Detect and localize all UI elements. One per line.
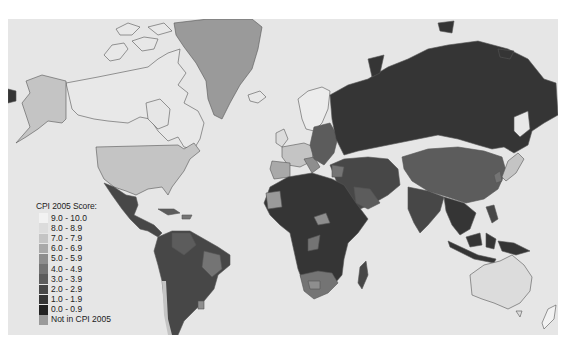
legend-item: 4.0 - 4.9 — [30, 264, 120, 274]
region-new-zealand — [542, 305, 556, 329]
legend-label: 4.0 - 4.9 — [51, 265, 82, 274]
region-iberia — [270, 161, 290, 179]
legend-title: CPI 2005 Score: — [36, 201, 120, 211]
legend-item: 2.0 - 2.9 — [30, 284, 120, 294]
legend-swatch — [39, 234, 48, 244]
legend-label: Not in CPI 2005 — [51, 315, 111, 324]
legend-swatch — [39, 223, 48, 233]
legend-item: 5.0 - 5.9 — [30, 254, 120, 264]
region-southeast-asia — [444, 197, 476, 235]
legend-item: 9.0 - 10.0 — [30, 213, 120, 223]
legend-swatch — [39, 264, 48, 274]
legend-item: 0.0 - 0.9 — [30, 305, 120, 315]
legend-swatch — [39, 315, 48, 325]
legend-label: 6.0 - 6.9 — [51, 244, 82, 253]
legend-label: 9.0 - 10.0 — [51, 214, 87, 223]
legend-swatch — [39, 285, 48, 295]
legend-swatch — [39, 274, 48, 284]
region-japan — [502, 153, 524, 181]
region-uk — [276, 129, 288, 147]
legend-label: 5.0 - 5.9 — [51, 254, 82, 263]
legend-item: 7.0 - 7.9 — [30, 233, 120, 243]
legend-swatch — [39, 295, 48, 305]
legend-swatch — [39, 213, 48, 223]
legend-label: 2.0 - 2.9 — [51, 285, 82, 294]
region-australia — [470, 255, 532, 309]
map-legend: CPI 2005 Score: 9.0 - 10.0 8.0 - 8.9 7.0… — [30, 201, 120, 325]
region-western-sahara — [266, 191, 282, 209]
region-alaska — [16, 75, 66, 143]
legend-item: Not in CPI 2005 — [30, 315, 120, 325]
legend-item: 8.0 - 8.9 — [30, 223, 120, 233]
legend-item: 3.0 - 3.9 — [30, 274, 120, 284]
world-map: CPI 2005 Score: 9.0 - 10.0 8.0 - 8.9 7.0… — [8, 19, 558, 335]
legend-label: 3.0 - 3.9 — [51, 275, 82, 284]
legend-swatch — [39, 254, 48, 264]
legend-item: 1.0 - 1.9 — [30, 295, 120, 305]
legend-item: 6.0 - 6.9 — [30, 244, 120, 254]
legend-label: 8.0 - 8.9 — [51, 224, 82, 233]
region-russia — [330, 41, 558, 155]
legend-label: 1.0 - 1.9 — [51, 295, 82, 304]
region-greenland — [174, 19, 262, 119]
legend-swatch — [39, 305, 48, 315]
legend-swatch — [39, 244, 48, 254]
legend-label: 0.0 - 0.9 — [51, 305, 82, 314]
legend-label: 7.0 - 7.9 — [51, 234, 82, 243]
region-canada — [66, 49, 204, 149]
